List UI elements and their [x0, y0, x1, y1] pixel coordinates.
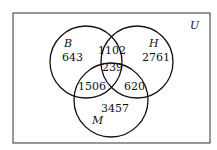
- region-h-m: 620: [124, 80, 145, 93]
- set-m-label: M: [91, 114, 104, 127]
- set-h-label: H: [148, 37, 159, 50]
- region-b-m: 1506: [78, 80, 106, 93]
- region-b-h-m: 239: [102, 61, 123, 74]
- universe-label: U: [190, 19, 200, 32]
- region-b-h: 1102: [98, 44, 126, 57]
- venn-diagram: U B H M 643 2761 3457 1102 239 1506 620: [0, 0, 217, 150]
- region-h-only: 2761: [142, 51, 170, 64]
- universe-rectangle: [13, 13, 210, 143]
- set-b-label: B: [63, 37, 72, 50]
- region-b-only: 643: [62, 51, 83, 64]
- region-m-only: 3457: [101, 102, 129, 115]
- circle-m: [74, 63, 148, 137]
